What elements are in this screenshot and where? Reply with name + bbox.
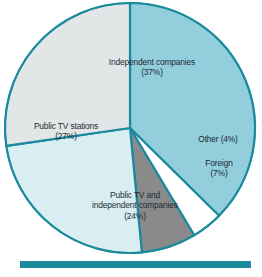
pie-slice-public-tv-and-independent-companies[interactable] bbox=[6, 128, 142, 253]
pie-chart: Independent companies (37%) Other (4%) F… bbox=[0, 0, 262, 277]
pie-chart-graphic bbox=[0, 0, 262, 277]
pie-slices-precise bbox=[5, 3, 255, 253]
pie-slice-public-tv-stations[interactable] bbox=[5, 3, 130, 146]
footer-rule bbox=[20, 261, 251, 268]
